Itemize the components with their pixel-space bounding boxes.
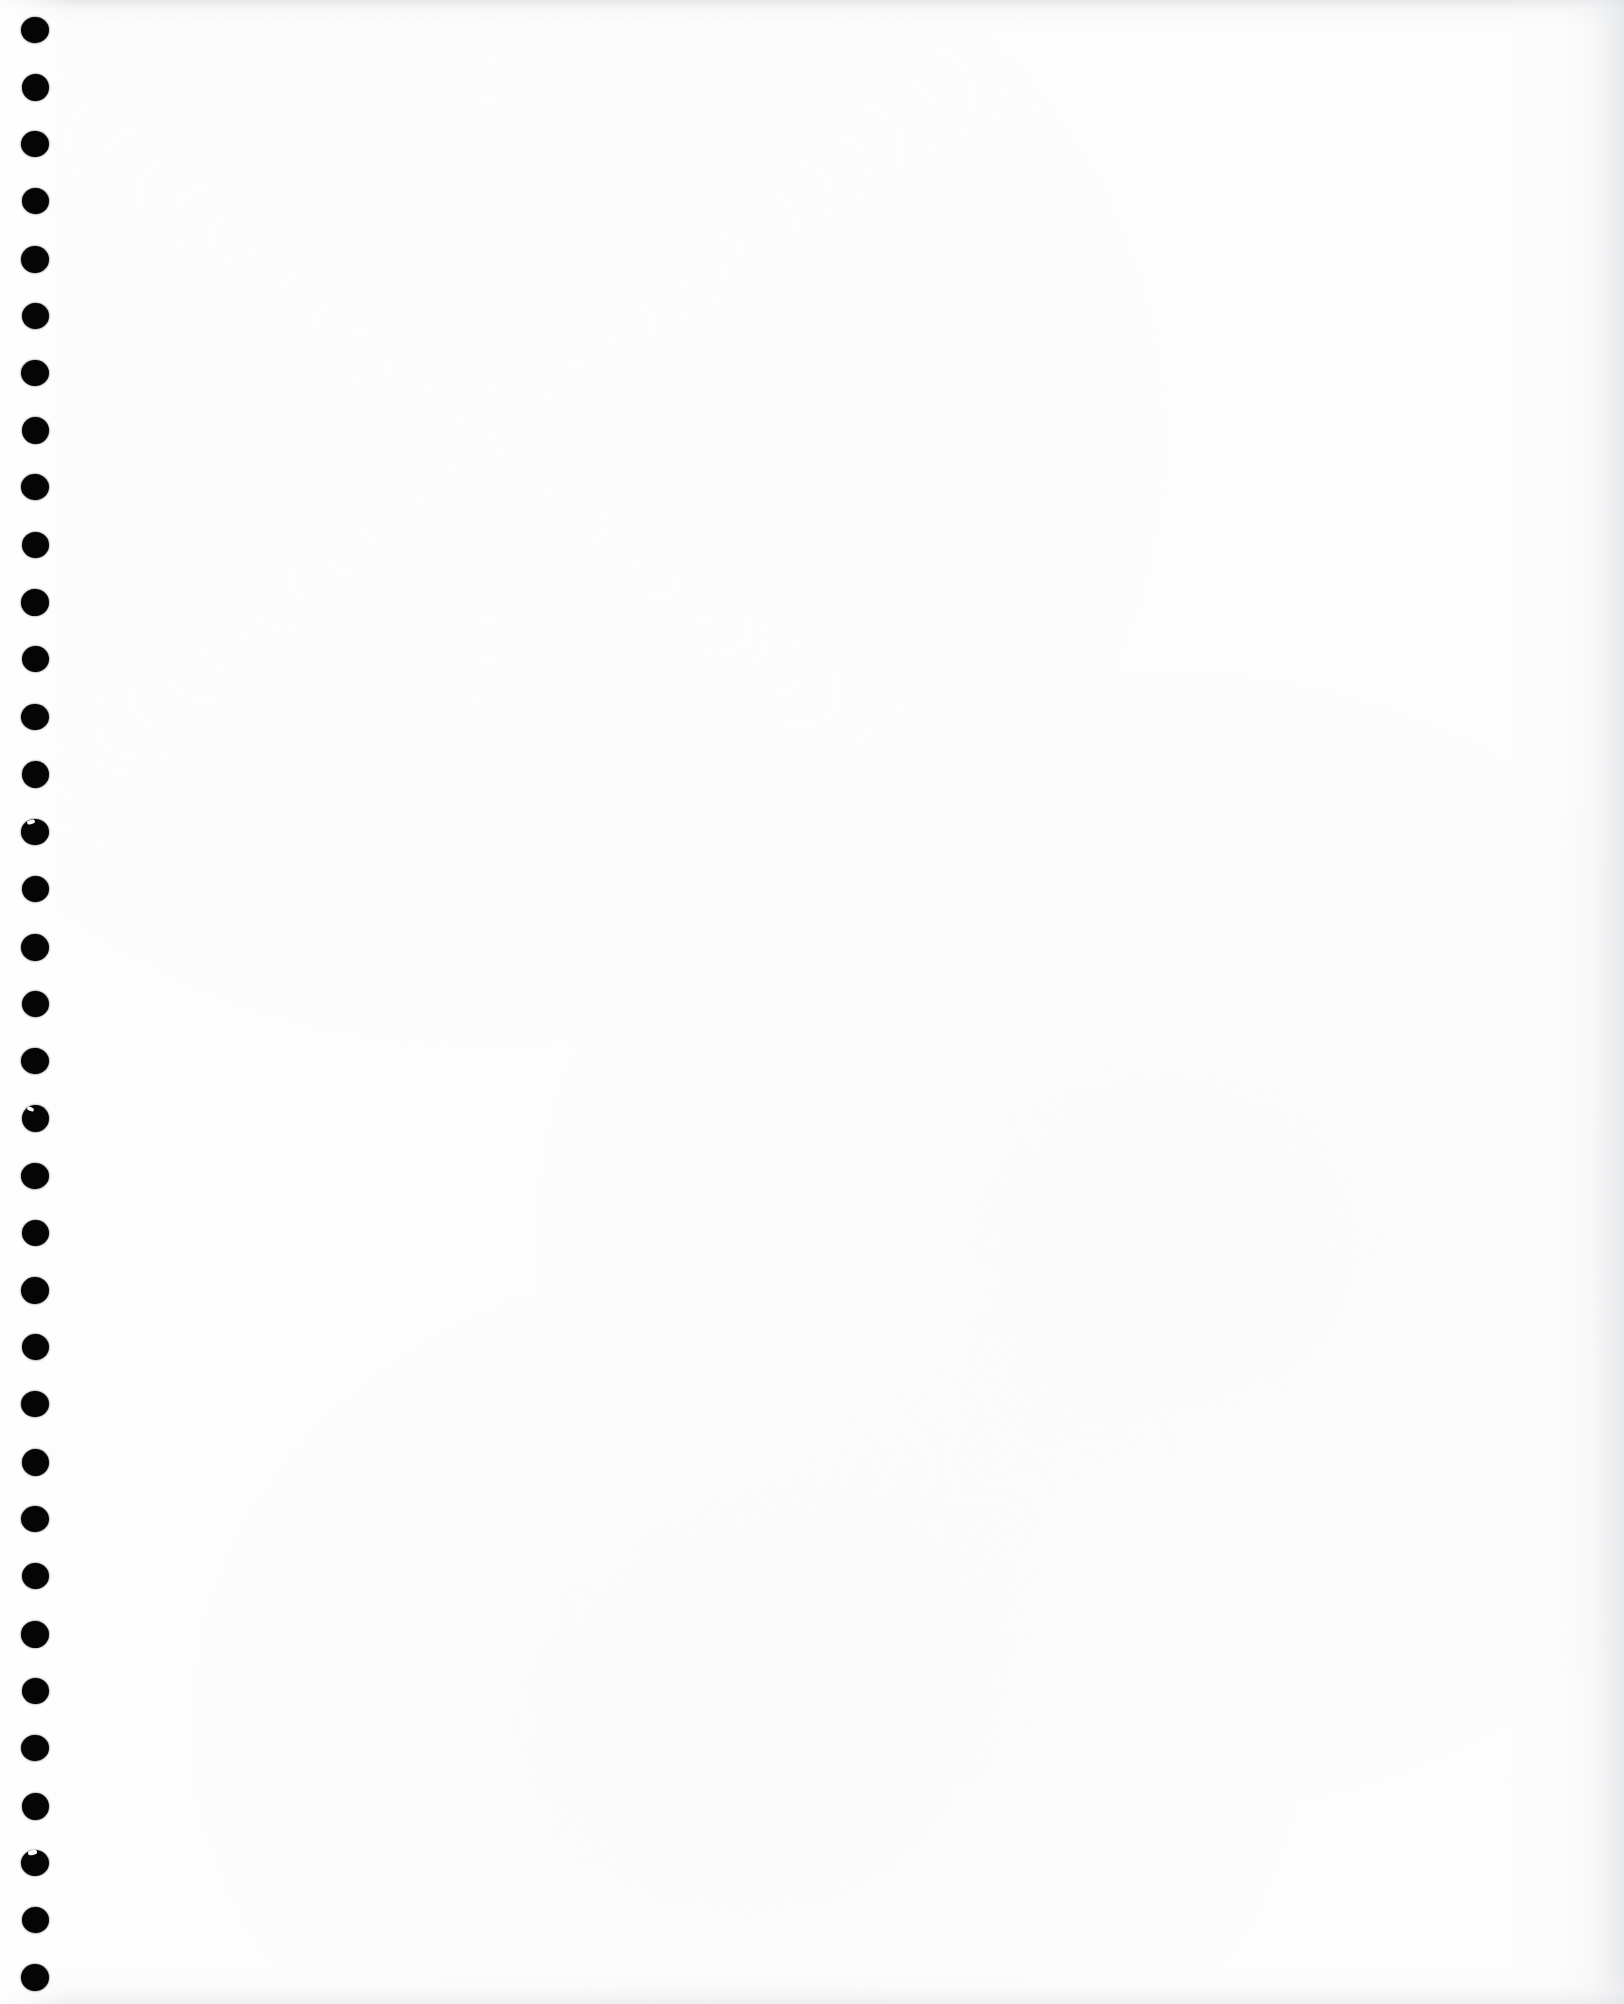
- punch-hole: [21, 131, 49, 157]
- punch-hole: [21, 760, 49, 788]
- punch-hole: [21, 704, 49, 730]
- punch-hole: [21, 933, 49, 960]
- punch-hole: [21, 1792, 48, 1819]
- punch-hole: [21, 1907, 49, 1934]
- punch-hole: [21, 246, 49, 273]
- punch-hole: [21, 17, 50, 44]
- punch-hole: [21, 360, 49, 386]
- punch-hole: [21, 1391, 49, 1417]
- punch-hole: [21, 646, 48, 672]
- binding-punch-hole-column: [0, 0, 72, 2004]
- scanned-page: [0, 0, 1624, 2004]
- punch-hole: [21, 1964, 49, 1991]
- punch-hole: [22, 532, 49, 558]
- punch-hole: [21, 1334, 49, 1361]
- punch-hole: [21, 1048, 50, 1075]
- punch-hole: [21, 991, 48, 1017]
- punch-hole: [21, 73, 48, 100]
- punch-hole: [21, 1276, 49, 1303]
- page-content-area: [72, 0, 1624, 2004]
- punch-hole: [21, 1506, 49, 1532]
- punch-hole: [22, 1105, 49, 1132]
- punch-hole: [21, 1620, 50, 1648]
- punch-hole: [21, 303, 49, 330]
- punch-hole: [21, 1448, 49, 1476]
- blank-page-content: [72, 0, 1624, 2004]
- punch-hole: [21, 1563, 48, 1589]
- punch-hole: [21, 876, 49, 903]
- punch-hole: [21, 1735, 50, 1762]
- punch-hole: [21, 588, 50, 616]
- punch-hole: [21, 474, 50, 501]
- punch-hole: [21, 1850, 49, 1876]
- punch-hole: [21, 188, 49, 215]
- punch-hole: [22, 1678, 49, 1704]
- punch-hole: [21, 1220, 48, 1246]
- punch-hole: [21, 416, 48, 443]
- punch-hole: [21, 1163, 50, 1190]
- punch-hole: [21, 819, 49, 845]
